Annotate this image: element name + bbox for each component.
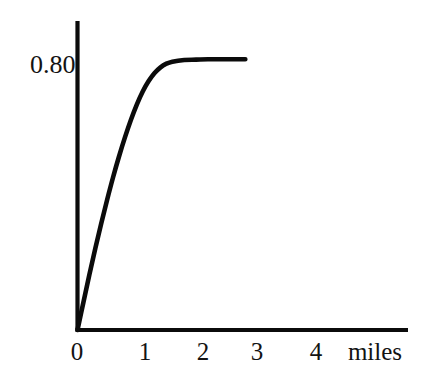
x-tick-label-0: 0: [71, 339, 84, 364]
x-tick-label-2: 2: [197, 339, 210, 364]
x-tick-label-4: 4: [310, 339, 323, 364]
x-axis-unit-label: miles: [348, 339, 402, 364]
x-tick-label-1: 1: [139, 339, 152, 364]
chart-container: 0.80 0 1 2 3 4 miles: [0, 0, 432, 381]
x-tick-label-3: 3: [251, 339, 264, 364]
y-axis-value-label: 0.80: [30, 52, 75, 78]
data-curve-line: [78, 59, 246, 330]
